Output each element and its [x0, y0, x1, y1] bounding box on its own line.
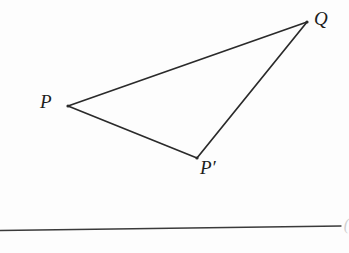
vertex-label-p-prime: P′	[200, 158, 216, 177]
vertex-dot-p-prime	[195, 156, 198, 159]
vertex-dot-q	[305, 20, 308, 23]
vertex-dot-p	[66, 104, 69, 107]
vertex-dot-group	[66, 20, 308, 159]
baseline-end-mark: (	[344, 216, 349, 234]
vertex-label-p: P	[40, 92, 52, 111]
caption-fragment	[0, 243, 349, 253]
triangle-group	[68, 22, 307, 158]
vertex-label-q: Q	[314, 9, 328, 28]
diagram-canvas	[0, 0, 349, 253]
figure-container: P Q P′ (	[0, 0, 349, 253]
edge-p-prime-to-p	[68, 106, 197, 158]
edge-q-to-p-prime	[197, 22, 307, 158]
edge-p-to-q	[68, 22, 307, 106]
baseline-line	[0, 226, 341, 231]
